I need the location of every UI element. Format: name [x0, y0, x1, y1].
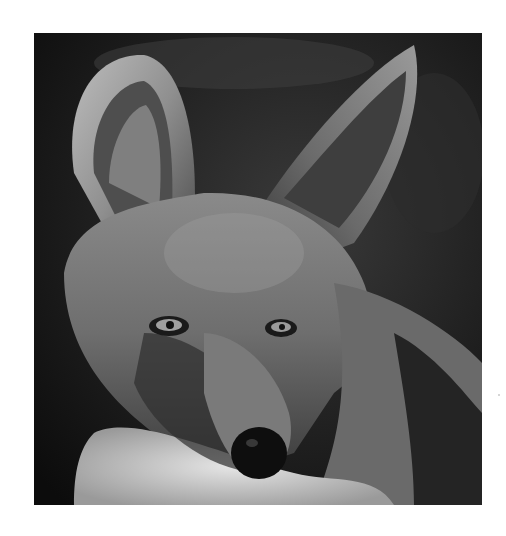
- jackal-photo: [34, 33, 482, 505]
- jackal-illustration: [34, 33, 482, 505]
- dust-speck: [498, 394, 500, 396]
